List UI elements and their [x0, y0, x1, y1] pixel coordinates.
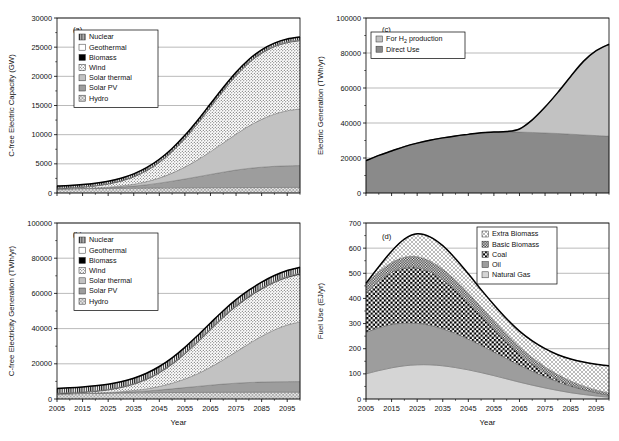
legend-swatch	[482, 231, 488, 237]
x-tick-label: 2035	[126, 404, 142, 413]
legend-label: Geothermal	[89, 246, 127, 255]
legend-label: Solar thermal	[89, 73, 132, 82]
x-tick-label: 2085	[253, 404, 269, 413]
x-tick-label: 2095	[279, 404, 295, 413]
y-tick-label: 600	[349, 244, 361, 253]
y-tick-label: 100	[349, 369, 361, 378]
chart-panel-d: 0100200300400500600700200520152025203520…	[309, 207, 619, 441]
legend-swatch	[482, 241, 488, 247]
y-tick-label: 700	[349, 219, 361, 228]
legend-label: Coal	[492, 250, 507, 259]
legend-d: Extra BiomassBasic BiomassCoalOilNatural…	[477, 227, 557, 284]
figure-root: 050001000015000200002500030000C-free Ele…	[0, 0, 619, 441]
y-tick-label: 20000	[31, 359, 52, 368]
legend-label: For H2 production	[386, 34, 443, 44]
y-tick-label: 0	[357, 189, 361, 198]
legend-swatch	[79, 34, 85, 40]
legend-swatch	[482, 251, 488, 257]
y-tick-label: 300	[349, 319, 361, 328]
y-tick-label: 30000	[31, 14, 52, 23]
x-tick-label: 2025	[100, 404, 116, 413]
legend-label: Solar PV	[89, 286, 118, 295]
legend-label: Geothermal	[89, 43, 127, 52]
y-tick-label: 200	[349, 344, 361, 353]
chart-panel-c: 020000400006000080000100000Electric Gene…	[309, 2, 619, 207]
legend-label: Nuclear	[89, 32, 114, 41]
legend-swatch	[79, 268, 85, 274]
y-tick-label: 100000	[336, 14, 361, 23]
legend-swatch	[376, 36, 382, 42]
legend-swatch	[79, 278, 85, 284]
y-tick-label: 60000	[340, 84, 361, 93]
legend-swatch	[79, 44, 85, 50]
chart-svg-b: 0200004000060000800001000002005201520252…	[0, 207, 310, 441]
legend-swatch	[79, 298, 85, 304]
legend-label: Biomass	[89, 53, 117, 62]
x-tick-label: 2005	[49, 404, 65, 413]
legend-label: Oil	[492, 260, 501, 269]
y-axis-title-a: C-free Electric Capacity (GW)	[7, 54, 16, 157]
panel-tag-d: (d)	[382, 232, 392, 241]
x-tick-label: 2035	[435, 404, 451, 413]
legend-c: For H2 productionDirect Use	[371, 32, 465, 58]
x-tick-label: 2045	[151, 404, 167, 413]
y-tick-label: 400	[349, 294, 361, 303]
y-tick-label: 25000	[31, 43, 52, 52]
legend-swatch	[79, 257, 85, 263]
x-tick-label: 2055	[177, 404, 193, 413]
y-tick-label: 80000	[31, 254, 52, 263]
y-axis-title-c: Electric Generation (TWh/yr)	[316, 56, 325, 155]
legend-swatch	[79, 247, 85, 253]
legend-label: Hydro	[89, 94, 108, 103]
x-tick-label: 2065	[511, 404, 527, 413]
x-axis-title-d: Year	[480, 418, 496, 427]
y-tick-label: 5000	[36, 159, 52, 168]
x-tick-label: 2025	[409, 404, 425, 413]
chart-svg-a: 050001000015000200002500030000C-free Ele…	[0, 2, 310, 207]
y-tick-label: 0	[48, 395, 52, 404]
x-tick-label: 2015	[74, 404, 90, 413]
x-tick-label: 2015	[383, 404, 399, 413]
y-tick-label: 10000	[31, 130, 52, 139]
legend-a: NuclearGeothermalBiomassWindSolar therma…	[74, 30, 158, 107]
legend-label: Basic Biomass	[492, 240, 540, 249]
x-tick-label: 2075	[228, 404, 244, 413]
x-tick-label: 2085	[562, 404, 578, 413]
y-tick-label: 40000	[340, 119, 361, 128]
y-tick-label: 20000	[31, 72, 52, 81]
x-tick-label: 2005	[358, 404, 374, 413]
chart-svg-c: 020000400006000080000100000Electric Gene…	[309, 2, 619, 207]
x-axis-title-b: Year	[171, 418, 187, 427]
legend-label: Biomass	[89, 256, 117, 265]
legend-swatch	[79, 54, 85, 60]
legend-label: Extra Biomass	[492, 229, 539, 238]
x-tick-label: 2065	[202, 404, 218, 413]
legend-swatch	[482, 262, 488, 268]
legend-swatch	[79, 237, 85, 243]
legend-b: NuclearGeothermalBiomassWindSolar therma…	[74, 233, 158, 310]
legend-label: Nuclear	[89, 235, 114, 244]
x-tick-label: 2095	[588, 404, 604, 413]
y-tick-label: 100000	[27, 219, 52, 228]
y-tick-label: 40000	[31, 324, 52, 333]
legend-swatch	[79, 75, 85, 81]
legend-label: Wind	[89, 63, 105, 72]
chart-panel-b: 0200004000060000800001000002005201520252…	[0, 207, 310, 441]
legend-swatch	[482, 272, 488, 278]
y-tick-label: 15000	[31, 101, 52, 110]
x-tick-label: 2045	[460, 404, 476, 413]
y-axis-title-b: C-free Electricity Generation (TWh/yr)	[7, 245, 16, 376]
chart-svg-d: 0100200300400500600700200520152025203520…	[309, 207, 619, 441]
y-tick-label: 0	[357, 395, 361, 404]
legend-label: Direct Use	[386, 45, 420, 54]
legend-label: Hydro	[89, 297, 108, 306]
y-tick-label: 20000	[340, 154, 361, 163]
legend-swatch	[79, 95, 85, 101]
y-tick-label: 500	[349, 269, 361, 278]
legend-swatch	[376, 46, 382, 52]
y-tick-label: 60000	[31, 289, 52, 298]
legend-label: Wind	[89, 266, 105, 275]
chart-panel-a: 050001000015000200002500030000C-free Ele…	[0, 2, 310, 207]
legend-swatch	[79, 288, 85, 294]
legend-label: Solar PV	[89, 83, 118, 92]
